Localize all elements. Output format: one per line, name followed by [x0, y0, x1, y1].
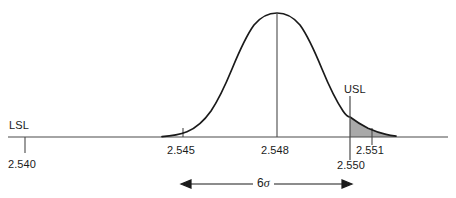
- process-capability-figure: LSL 2.540 2.545 2.548 USL 2.551 2.550 6σ: [0, 0, 456, 198]
- out-of-spec-tail-shading: [350, 117, 396, 137]
- tail-shaded-area: [350, 117, 396, 137]
- usl-label: USL: [344, 84, 366, 95]
- normal-distribution-curve: [162, 13, 396, 137]
- usl-value-label: 2.550: [337, 160, 365, 171]
- center-value-label: 2.548: [261, 145, 289, 156]
- figure-canvas: [0, 0, 456, 198]
- sigma-symbol: σ: [264, 176, 270, 190]
- six-sigma-number: 6: [257, 176, 264, 190]
- lsl-value-label: 2.540: [8, 159, 36, 170]
- lsl-label: LSL: [9, 120, 29, 131]
- upper-tick-value-label: 2.551: [356, 145, 384, 156]
- six-sigma-label: 6σ: [253, 177, 274, 189]
- dimension-arrow-left: [181, 180, 191, 188]
- dimension-arrow-right: [342, 180, 352, 188]
- lower-tick-value-label: 2.545: [167, 145, 195, 156]
